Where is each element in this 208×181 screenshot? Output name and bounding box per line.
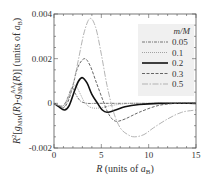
- legend-label: 0.05: [172, 37, 188, 47]
- legend-label: 0.3: [172, 69, 184, 79]
- y-tick-label: 0.004: [32, 9, 53, 19]
- x-tick-label: 15: [192, 150, 202, 160]
- legend-label: 0.2: [172, 58, 183, 68]
- y-tick-label: 0.002: [32, 54, 52, 64]
- y-tick-label: -0.002: [29, 143, 52, 153]
- x-tick-label: 10: [144, 150, 154, 160]
- x-tick-label: 5: [99, 150, 104, 160]
- x-axis-label: R (units of aB): [95, 163, 154, 176]
- chart: 051015-0.00200.0020.004 R (units of aB) …: [0, 0, 208, 181]
- y-tick-label: 0: [48, 98, 53, 108]
- legend-label: 0.1: [172, 48, 183, 58]
- legend-label: 0.5: [172, 79, 184, 89]
- x-tick-label: 0: [52, 150, 57, 160]
- y-axis-label: R2[gMM(R)-gMMAA(R)] (units of aB): [10, 18, 23, 145]
- legend-title: m/M: [174, 26, 191, 36]
